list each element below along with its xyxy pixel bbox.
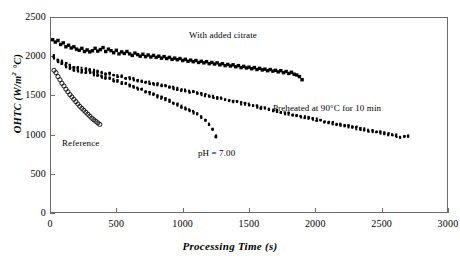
data-point (101, 75, 103, 77)
data-point (316, 117, 318, 119)
data-point (205, 93, 207, 95)
data-point (57, 60, 59, 62)
data-point (129, 86, 131, 88)
data-point (185, 108, 187, 110)
data-point (268, 109, 270, 111)
data-point (53, 58, 55, 60)
data-point (168, 85, 170, 87)
data-point (220, 98, 222, 100)
data-point (176, 89, 178, 91)
data-point (363, 127, 365, 129)
data-point (73, 69, 75, 71)
data-point (180, 106, 182, 108)
data-point (184, 90, 186, 92)
data-point (232, 100, 234, 102)
data-point (105, 72, 107, 74)
data-point (344, 125, 346, 127)
data-point (196, 113, 198, 115)
y-tick-mark (50, 213, 55, 214)
data-point (288, 114, 290, 116)
data-point (85, 68, 87, 70)
data-point (69, 67, 71, 69)
x-tick-label: 0 (20, 219, 80, 229)
data-point (204, 120, 206, 122)
data-point (105, 77, 107, 79)
x-tick-label: 3000 (418, 219, 460, 229)
data-point (97, 74, 99, 76)
y-tick-label: 1000 (2, 130, 46, 140)
data-point (295, 115, 297, 117)
series-label-reference: Reference (62, 138, 99, 148)
data-point (379, 133, 381, 135)
data-point (113, 74, 115, 76)
data-point (108, 77, 110, 79)
data-point (141, 89, 143, 91)
data-point (101, 46, 104, 49)
y-tick-label: 500 (2, 169, 46, 179)
y-axis-title-tail: °C) (12, 54, 23, 72)
x-axis-title: Processing Time (s) (0, 240, 460, 252)
data-point (116, 76, 118, 78)
series-label-preheated: Preheated at 90°C for 10 min (273, 103, 381, 113)
data-point (161, 97, 163, 99)
data-point (363, 129, 365, 131)
y-tick-label: 2500 (2, 12, 46, 22)
data-point (62, 41, 65, 44)
data-point (93, 74, 95, 76)
data-point (355, 126, 357, 128)
data-point (172, 87, 174, 89)
data-point (133, 79, 135, 81)
data-point (201, 94, 203, 96)
data-point (65, 65, 67, 67)
data-point (149, 93, 151, 95)
data-point (152, 94, 154, 96)
data-point (215, 134, 217, 136)
data-point (133, 86, 135, 88)
data-point (89, 71, 91, 73)
data-point (316, 119, 318, 121)
data-point (213, 97, 215, 99)
data-point (77, 67, 79, 69)
data-point (335, 124, 337, 126)
data-point (176, 104, 178, 106)
data-point (319, 119, 321, 121)
data-point (212, 95, 214, 97)
y-tick-label: 0 (2, 208, 46, 218)
data-series-canvas (50, 17, 448, 213)
data-point (328, 121, 330, 123)
x-tick-mark (448, 208, 449, 213)
data-point (300, 117, 302, 119)
data-point (256, 105, 258, 107)
data-point (81, 67, 83, 69)
data-point (128, 84, 130, 86)
data-point (157, 82, 159, 84)
data-point (121, 81, 123, 83)
data-point (181, 88, 183, 90)
data-point (200, 116, 202, 118)
data-point (125, 82, 127, 84)
data-point (407, 134, 409, 136)
data-point (141, 81, 143, 83)
data-point (379, 130, 381, 132)
data-point (137, 89, 139, 91)
data-point (81, 70, 83, 72)
y-tick-label: 2000 (2, 51, 46, 61)
x-tick-label: 500 (86, 219, 146, 229)
data-point (375, 131, 377, 133)
data-point (164, 99, 166, 101)
data-point (252, 104, 254, 106)
data-point (168, 101, 170, 103)
data-point (323, 121, 325, 123)
x-tick-label: 1000 (153, 219, 213, 229)
y-axis-title: OHTC (W/m2 °C) (12, 39, 23, 149)
data-point (189, 92, 191, 94)
data-point (121, 74, 123, 76)
x-tick-label: 2500 (352, 219, 412, 229)
data-point (240, 103, 242, 105)
data-point (339, 125, 341, 127)
plot-data-area (50, 17, 448, 213)
data-point (298, 75, 301, 78)
data-point (248, 103, 250, 105)
data-point (388, 132, 390, 134)
data-point (161, 85, 163, 87)
